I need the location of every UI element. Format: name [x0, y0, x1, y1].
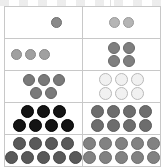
- dot-icon: [108, 55, 120, 67]
- dot-icon: [37, 151, 50, 164]
- dot-icon: [53, 105, 66, 118]
- dot-icon: [123, 105, 136, 118]
- dot-cluster: [5, 71, 82, 102]
- dot-cluster: [83, 103, 160, 134]
- dot-cluster: [5, 7, 82, 38]
- dot-cluster: [5, 135, 82, 166]
- dot-icon: [99, 151, 112, 164]
- dot-row: [23, 74, 65, 86]
- dot-icon: [30, 87, 42, 99]
- dot-row: [109, 17, 134, 28]
- dot-icon: [21, 151, 34, 164]
- dot-icon: [45, 119, 58, 132]
- dot-cell-3: [5, 39, 83, 71]
- dot-row: [108, 42, 135, 54]
- dot-icon: [13, 119, 26, 132]
- dot-row: [5, 151, 82, 164]
- dot-row: [99, 73, 144, 86]
- dot-cell-4: [83, 39, 161, 71]
- dot-icon: [131, 87, 144, 100]
- dot-icon: [115, 87, 128, 100]
- dot-cell-2: [83, 7, 161, 39]
- dot-icon: [99, 87, 112, 100]
- dot-icon: [23, 74, 35, 86]
- dot-icon: [131, 73, 144, 86]
- dot-count-grid-figure: [0, 0, 165, 167]
- dot-icon: [83, 151, 96, 164]
- dot-row: [21, 105, 66, 118]
- dot-cluster: [5, 39, 82, 70]
- dot-icon: [147, 137, 160, 150]
- dot-icon: [37, 105, 50, 118]
- dot-row: [13, 137, 74, 150]
- dot-cell-10: [83, 135, 161, 167]
- dot-row: [99, 87, 144, 100]
- dot-cluster: [83, 71, 160, 102]
- dot-icon: [53, 151, 66, 164]
- dot-row: [83, 137, 160, 150]
- dot-icon: [39, 49, 50, 60]
- dot-row: [11, 49, 50, 60]
- dot-icon: [83, 137, 96, 150]
- dot-cluster: [5, 103, 82, 134]
- dot-icon: [21, 105, 34, 118]
- dot-icon: [107, 119, 120, 132]
- dot-icon: [45, 87, 57, 99]
- dot-icon: [107, 105, 120, 118]
- dot-icon: [51, 17, 62, 28]
- dot-cluster: [83, 135, 160, 166]
- dot-icon: [61, 137, 74, 150]
- dot-row: [30, 87, 57, 99]
- dot-icon: [123, 17, 134, 28]
- dot-icon: [13, 137, 26, 150]
- dot-row: [13, 119, 74, 132]
- dot-icon: [147, 151, 160, 164]
- dot-icon: [11, 49, 22, 60]
- dot-icon: [53, 74, 65, 86]
- dot-row: [83, 151, 160, 164]
- dot-icon: [115, 73, 128, 86]
- dot-icon: [45, 137, 58, 150]
- dot-icon: [38, 74, 50, 86]
- dot-icon: [123, 42, 135, 54]
- dot-row: [91, 105, 152, 118]
- dot-icon: [108, 42, 120, 54]
- dot-icon: [139, 105, 152, 118]
- dot-icon: [99, 73, 112, 86]
- dot-cell-7: [5, 103, 83, 135]
- dot-icon: [131, 151, 144, 164]
- dot-icon: [5, 151, 18, 164]
- dot-icon: [123, 119, 136, 132]
- dot-cell-1: [5, 7, 83, 39]
- dot-row: [51, 17, 62, 28]
- dot-row: [91, 119, 152, 132]
- dot-cell-5: [5, 71, 83, 103]
- dot-icon: [91, 119, 104, 132]
- dot-grid-table: [4, 6, 161, 167]
- dot-icon: [61, 119, 74, 132]
- dot-icon: [25, 49, 36, 60]
- dot-icon: [29, 119, 42, 132]
- dot-row: [108, 55, 135, 67]
- dot-icon: [29, 137, 42, 150]
- dot-icon: [115, 151, 128, 164]
- dot-icon: [115, 137, 128, 150]
- dot-cell-9: [5, 135, 83, 167]
- dot-cluster: [83, 7, 160, 38]
- dot-icon: [91, 105, 104, 118]
- dot-icon: [109, 17, 120, 28]
- dot-cluster: [83, 39, 160, 70]
- dot-icon: [69, 151, 82, 164]
- dot-icon: [123, 55, 135, 67]
- dot-icon: [131, 137, 144, 150]
- dot-icon: [139, 119, 152, 132]
- dot-cell-8: [83, 103, 161, 135]
- dot-cell-6: [83, 71, 161, 103]
- dot-icon: [99, 137, 112, 150]
